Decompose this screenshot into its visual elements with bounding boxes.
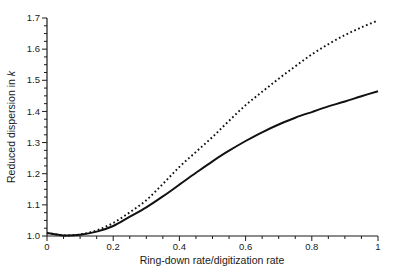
y-tick-label: 1.3 bbox=[27, 137, 40, 148]
y-axis-title-text: Reduced dispersion in bbox=[5, 76, 17, 183]
y-axis-title-italic: k bbox=[5, 71, 17, 76]
dotted-curve bbox=[47, 21, 378, 236]
x-tick-label: 0.8 bbox=[305, 241, 318, 252]
y-tick-label: 1.0 bbox=[27, 230, 40, 241]
x-tick-label: 0.4 bbox=[173, 241, 186, 252]
y-tick-label: 1.6 bbox=[27, 43, 40, 54]
x-tick-label: 0.6 bbox=[239, 241, 252, 252]
figure: 00.20.40.60.811.01.11.21.31.41.51.61.7 R… bbox=[0, 0, 395, 277]
x-tick-label: 0.2 bbox=[107, 241, 120, 252]
y-tick-label: 1.2 bbox=[27, 168, 40, 179]
y-tick-label: 1.7 bbox=[27, 12, 40, 23]
x-axis-title: Ring-down rate/digitization rate bbox=[140, 254, 285, 266]
chart-canvas: 00.20.40.60.811.01.11.21.31.41.51.61.7 bbox=[0, 0, 395, 277]
solid-curve bbox=[47, 91, 378, 235]
x-tick-label: 0 bbox=[44, 241, 49, 252]
y-axis-title: Reduced dispersion in k bbox=[5, 71, 17, 183]
y-tick-label: 1.1 bbox=[27, 199, 40, 210]
x-tick-label: 1 bbox=[375, 241, 380, 252]
y-tick-label: 1.5 bbox=[27, 74, 40, 85]
y-tick-label: 1.4 bbox=[27, 106, 40, 117]
